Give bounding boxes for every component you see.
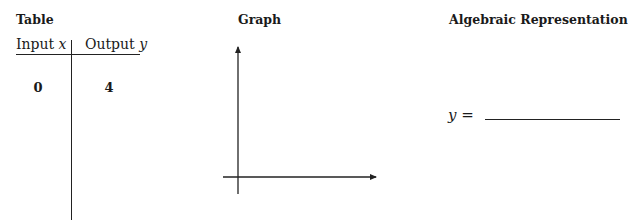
table-heading: Table: [16, 12, 54, 27]
graph-heading: Graph: [238, 12, 281, 27]
table-column-divider: [71, 40, 72, 220]
column-header-input: Input x: [16, 36, 67, 52]
column-header-input-word: Input: [16, 36, 54, 52]
coordinate-axes: [220, 40, 390, 220]
column-header-output-word: Output: [85, 36, 135, 52]
equation-equals: =: [461, 106, 474, 124]
table-cell-input: 0: [23, 80, 53, 95]
table-header-underline: [16, 54, 140, 55]
equation-line: y =: [448, 106, 620, 124]
equation-answer-blank[interactable]: [485, 118, 620, 120]
equation-lhs: y: [448, 106, 456, 124]
column-header-output: Output y: [85, 36, 147, 52]
table-cell-output: 4: [94, 80, 124, 95]
algebraic-heading: Algebraic Representation: [449, 12, 628, 27]
column-header-output-var: y: [139, 36, 147, 52]
column-header-input-var: x: [59, 36, 67, 52]
